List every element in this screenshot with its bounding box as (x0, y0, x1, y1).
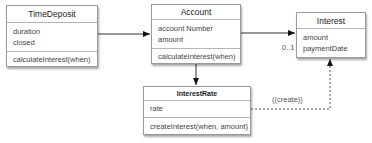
class-attributes: account Number amount (152, 20, 240, 49)
class-name: InterestRate (144, 87, 250, 101)
multiplicity-label: 0..1 (282, 43, 295, 52)
class-name: Account (152, 5, 240, 20)
attribute: duration (13, 26, 97, 37)
attribute: rate (150, 103, 250, 114)
class-attributes: duration closed (7, 23, 97, 52)
class-interest[interactable]: Interest amount paymentDate (296, 12, 366, 58)
class-attributes: amount paymentDate (297, 29, 365, 57)
method: calculateInterest(when) (13, 54, 97, 65)
class-interestrate[interactable]: InterestRate rate createInterest(when, a… (143, 86, 251, 135)
class-name: Interest (297, 13, 365, 29)
class-methods: createInterest(when, amount) (144, 118, 250, 132)
create-stereotype-label: ((create)) (272, 95, 303, 104)
class-attributes: rate (144, 101, 250, 118)
attribute: paymentDate (303, 43, 365, 54)
attribute: amount (303, 32, 365, 43)
attribute: account Number (158, 23, 240, 34)
class-methods: calculateInterest(when) (152, 49, 240, 62)
attribute: closed (13, 37, 97, 48)
class-name: TimeDeposit (7, 6, 97, 23)
attribute: amount (158, 34, 240, 45)
method: calculateInterest(when) (158, 51, 240, 62)
class-timedeposit[interactable]: TimeDeposit duration closed calculateInt… (6, 5, 98, 67)
class-methods: calculateInterest(when) (7, 52, 97, 65)
method: createInterest(when, amount) (150, 121, 250, 132)
class-account[interactable]: Account account Number amount calculateI… (151, 4, 241, 64)
